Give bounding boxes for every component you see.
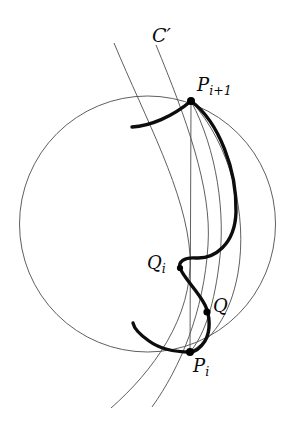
label-q-i-base: Q bbox=[147, 252, 162, 273]
point-P-next bbox=[187, 97, 195, 105]
label-c-prime: C′ bbox=[152, 26, 171, 45]
boundary-circle bbox=[20, 96, 276, 352]
geodesic-arc-left bbox=[111, 43, 190, 408]
label-q-base: Q bbox=[213, 295, 228, 316]
label-q: Q bbox=[213, 297, 228, 315]
point-Q bbox=[203, 308, 210, 315]
diagram-svg bbox=[0, 0, 294, 423]
figure-canvas: C′ Pi+1 Qi Q Pi bbox=[0, 0, 294, 423]
label-p-i-plus-1: Pi+1 bbox=[197, 76, 232, 97]
label-p-i-sub: i bbox=[205, 364, 209, 379]
label-p-i-plus-1-sub: i+1 bbox=[209, 83, 232, 98]
label-p-i-plus-1-base: P bbox=[197, 74, 209, 95]
label-q-i-sub: i bbox=[162, 261, 166, 276]
label-c-prime-mark: ′ bbox=[167, 24, 171, 46]
label-p-i-base: P bbox=[193, 355, 205, 376]
point-Q-i bbox=[177, 265, 183, 271]
label-c-prime-base: C bbox=[152, 24, 167, 46]
label-q-i: Qi bbox=[147, 254, 166, 275]
label-p-i: Pi bbox=[193, 357, 209, 378]
chord-Pi-Pi1 bbox=[190, 101, 191, 352]
